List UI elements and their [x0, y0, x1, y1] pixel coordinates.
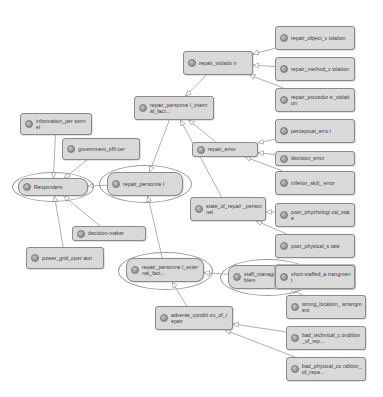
node-short_staffed_arrangment[interactable]: short-staffed_a rrangment	[275, 265, 355, 289]
edge-repair_personnel_internal_factor-to-repair_personnel	[150, 120, 170, 172]
class-node-icon	[160, 314, 168, 322]
node-label: decision_error	[291, 155, 351, 161]
node-label: government_offi cer	[78, 146, 136, 152]
node-label: power_grid_oper ator	[42, 255, 100, 261]
node-label: repair_object_v iolation	[291, 35, 351, 41]
edge-perceptual_error-to-repair_error	[258, 139, 275, 142]
node-label: repair_procedur e_violation	[291, 94, 351, 107]
node-inferior_skill_error[interactable]: inferior_skill_ error	[275, 171, 355, 195]
edge-bad_physical_condition_of_repa-to-adverse_condition_of_repair	[225, 330, 295, 357]
node-label: inferior_skill_ error	[291, 180, 351, 186]
node-government_officer[interactable]: government_offi cer	[62, 138, 140, 160]
edge-bad_technical_condition_of_rep-to-adverse_condition_of_repair	[233, 324, 286, 332]
class-node-icon	[291, 334, 299, 342]
class-node-icon	[280, 34, 288, 42]
node-perceptual_error[interactable]: perceptual_erro r	[275, 119, 355, 143]
class-node-icon	[23, 183, 31, 191]
edge-repair_violation-to-repair_personnel_internal_factor	[186, 75, 207, 96]
node-label: repair_violatio n	[199, 60, 249, 66]
class-node-icon	[112, 180, 120, 188]
node-label: information_per sonnel	[36, 118, 88, 131]
node-label: short-staffed_a rrangment	[291, 271, 351, 284]
class-node-icon	[67, 145, 75, 153]
node-label: poor_phychologi cal_state	[291, 209, 351, 222]
diagram-canvas: information_per sonnelgovernment_offi ce…	[0, 0, 383, 397]
node-label: repair_method_v iolation	[291, 66, 351, 72]
node-responders[interactable]: Responders	[18, 178, 88, 196]
class-node-icon	[77, 230, 85, 238]
edge-repair_method_violation-to-repair_violation	[253, 65, 275, 66]
class-node-icon	[280, 179, 288, 187]
edge-poor_phychological_state-to-state_of_repair_personnel	[266, 212, 275, 213]
node-poor_physical_state[interactable]: poor_physical_s tate	[275, 234, 355, 258]
node-bad_physical_condition_of_repa[interactable]: bad_physical_co ndition_of_repa...	[286, 357, 366, 381]
edge-power_grid_operator-to-responders	[55, 196, 64, 247]
edge-decision_error-to-repair_error	[258, 153, 275, 155]
class-node-icon	[280, 242, 288, 250]
edge-repair_error-to-repair_personnel_internal_factor	[189, 120, 216, 142]
node-repair_error[interactable]: repair_error	[192, 142, 258, 157]
node-decision_error[interactable]: decision_error	[275, 151, 355, 166]
node-repair_personnel_external_factor[interactable]: repair_personne l_external_fact...	[126, 258, 204, 282]
node-label: state_of_repair _personnel	[206, 203, 262, 216]
node-repair_object_violation[interactable]: repair_object_v iolation	[275, 26, 355, 50]
node-label: repair_error	[208, 146, 254, 152]
class-node-icon	[280, 155, 288, 163]
node-bad_technical_condition_of_rep[interactable]: bad_technical_c ondition_of_rep...	[286, 326, 366, 350]
edge-repair_personnel_external_factor-to-repair_personnel	[148, 196, 162, 258]
edge-repair_object_violation-to-repair_violation	[253, 48, 275, 54]
class-node-icon	[195, 205, 203, 213]
node-label: bad_technical_c ondition_of_rep...	[302, 332, 362, 345]
class-node-icon	[25, 120, 33, 128]
node-information_personnel[interactable]: information_per sonnel	[20, 113, 92, 135]
class-node-icon	[188, 59, 196, 67]
class-node-icon	[139, 104, 147, 112]
class-node-icon	[280, 273, 288, 281]
class-node-icon	[291, 365, 299, 373]
node-decision_maker[interactable]: decision-maker	[72, 226, 146, 241]
class-node-icon	[280, 96, 288, 104]
node-repair_personnel_internal_factor[interactable]: repair_personne l_internal_fact...	[134, 96, 214, 120]
class-node-icon	[131, 266, 139, 274]
node-poor_phychological_state[interactable]: poor_phychologi cal_state	[275, 203, 355, 227]
class-node-icon	[280, 65, 288, 73]
class-node-icon	[291, 303, 299, 311]
class-node-icon	[197, 146, 205, 154]
node-repair_procedure_violation[interactable]: repair_procedur e_violation	[275, 88, 355, 112]
class-node-icon	[233, 273, 241, 281]
node-label: wrong_location_ arrangment	[302, 301, 362, 314]
node-label: decision-maker	[88, 230, 142, 236]
node-label: repair_personne l_internal_fact...	[150, 102, 210, 115]
node-power_grid_operator[interactable]: power_grid_oper ator	[26, 247, 104, 269]
class-node-icon	[280, 211, 288, 219]
class-node-icon	[280, 127, 288, 135]
node-adverse_condition_of_repair[interactable]: adverse_conditi on_of_repair	[155, 306, 233, 330]
node-repair_personnel[interactable]: repair_personne l	[107, 172, 183, 196]
node-repair_method_violation[interactable]: repair_method_v iolation	[275, 57, 355, 81]
node-label: repair_personne l	[123, 181, 179, 187]
node-wrong_location_arrangment[interactable]: wrong_location_ arrangment	[286, 295, 366, 319]
node-repair_violation[interactable]: repair_violatio n	[183, 51, 253, 75]
node-state_of_repair_personnel[interactable]: state_of_repair _personnel	[190, 197, 266, 221]
class-node-icon	[31, 254, 39, 262]
node-label: bad_physical_co ndition_of_repa...	[302, 363, 362, 376]
node-label: adverse_conditi on_of_repair	[171, 312, 229, 325]
node-label: perceptual_erro r	[291, 128, 351, 134]
node-label: poor_physical_s tate	[291, 243, 351, 249]
node-label: repair_personne l_external_fact...	[142, 264, 200, 277]
node-label: Responders	[34, 184, 84, 190]
